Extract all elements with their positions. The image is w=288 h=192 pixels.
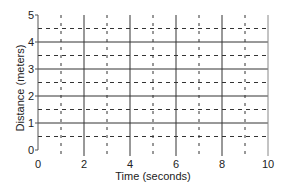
x-tick-label: 4 — [127, 158, 133, 170]
y-axis-label: Distance (meters) — [14, 45, 26, 132]
y-tick-label: 5 — [28, 9, 34, 21]
x-tick-label: 10 — [262, 158, 274, 170]
y-tick-label: 1 — [28, 117, 34, 129]
x-axis-ticks: 0246810 — [35, 158, 274, 170]
y-tick-label: 2 — [28, 90, 34, 102]
x-tick-label: 2 — [81, 158, 87, 170]
x-tick-label: 8 — [219, 158, 225, 170]
grid — [38, 15, 268, 156]
y-tick-label: 4 — [28, 36, 34, 48]
x-tick-label: 0 — [35, 158, 41, 170]
x-tick-label: 6 — [173, 158, 179, 170]
y-tick-label: 0 — [28, 144, 34, 156]
y-tick-label: 3 — [28, 63, 34, 75]
distance-time-chart: 012345 0246810 Time (seconds) Distance (… — [0, 0, 288, 192]
y-axis-ticks: 012345 — [28, 9, 38, 156]
x-axis-label: Time (seconds) — [115, 170, 190, 182]
